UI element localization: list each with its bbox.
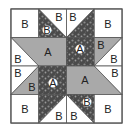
quilt-block-diagram: B B B B B A B A B B B B A A B B B B B B <box>0 0 126 135</box>
label-r0c1-white: B <box>55 11 62 23</box>
label-r2c0-gray: B <box>28 81 35 93</box>
label-a-gray-lower: A <box>81 74 89 86</box>
label-r0c1-dark: B <box>43 24 50 36</box>
label-r3c2-white: B <box>70 110 77 122</box>
label-r1c3-gray: B <box>97 39 104 51</box>
label-r3c1-white: B <box>55 110 62 122</box>
label-r0c3: B <box>104 18 111 30</box>
label-r2c0-white: B <box>14 67 21 79</box>
label-r2c3-white: B <box>111 67 118 79</box>
label-a-dark-upper: A <box>76 43 84 55</box>
label-r1c3-white: B <box>110 53 117 65</box>
label-r3c2-dark: B <box>83 96 90 108</box>
label-r0c2-white: B <box>69 11 76 23</box>
label-a-gray-upper: A <box>44 46 52 58</box>
label-r0c0: B <box>21 18 28 30</box>
label-a-dark-lower: A <box>49 77 57 89</box>
label-r1c0-white: B <box>14 53 21 65</box>
label-r3c3: B <box>104 103 111 115</box>
label-r3c0: B <box>21 103 28 115</box>
